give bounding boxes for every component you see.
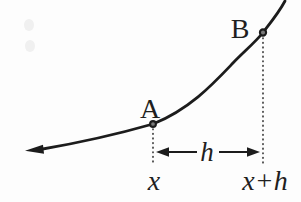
point-a-label: A [140,93,161,124]
x-tick-label: x [147,165,161,196]
diagram-canvas: A B h x x+h [0,0,301,202]
curve-arrowhead [25,145,44,154]
h-arrow-right-head [247,147,260,157]
secant-slope-diagram: A B h x x+h [0,0,301,202]
h-label: h [200,137,214,167]
scan-smudge [24,19,34,31]
point-b-label: B [231,13,250,44]
point-b-dot [260,29,266,35]
scan-smudge [25,40,35,52]
x-plus-h-tick-label: x+h [241,165,287,196]
h-arrow-left-head [156,147,169,157]
